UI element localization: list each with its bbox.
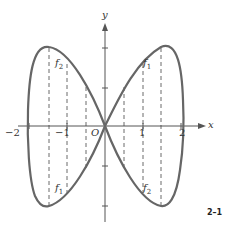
x-tick-label-neg2: −2	[5, 127, 20, 138]
y-axis-arrow-icon	[102, 23, 108, 31]
x-axis-label: x	[208, 119, 214, 130]
x-tick-label-neg1: −1	[55, 127, 70, 138]
curve-label-upper-right: f1	[143, 57, 151, 71]
figure-number: 2–1	[207, 208, 222, 217]
x-tick-label-2: 2	[179, 127, 185, 138]
curve-label-lower-left: f1	[55, 182, 63, 196]
curve-label-lower-right: f2	[143, 182, 151, 196]
x-axis-arrow-icon	[198, 123, 206, 129]
x-tick-label-1: 1	[139, 127, 145, 138]
origin-label: O	[91, 127, 99, 138]
y-axis-label: y	[102, 9, 108, 20]
diagram-canvas	[0, 0, 229, 229]
curve-label-upper-left: f2	[55, 57, 63, 71]
